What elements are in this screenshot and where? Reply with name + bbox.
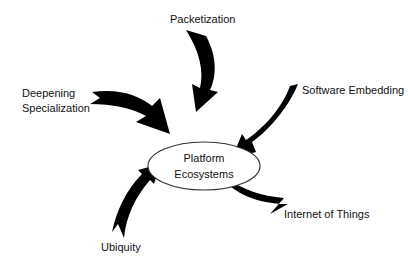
label-internet-of-things: Internet of Things (284, 207, 369, 222)
arrow-software-embedding (232, 84, 298, 158)
center-label-line2: Ecosystems (150, 166, 258, 182)
label-deepening-line1: Deepening (22, 86, 90, 101)
arrow-packetization (186, 30, 218, 112)
label-software-embedding: Software Embedding (302, 83, 404, 98)
label-deepening-line2: Specialization (22, 101, 90, 116)
arrow-deepening-specialization (90, 91, 170, 134)
label-packetization: Packetization (170, 12, 235, 27)
center-node: Platform Ecosystems (150, 150, 258, 182)
arrows-layer (0, 0, 412, 270)
label-ubiquity: Ubiquity (101, 240, 141, 255)
center-label-line1: Platform (150, 150, 258, 166)
label-deepening-specialization: Deepening Specialization (22, 86, 90, 116)
diagram-canvas: Platform Ecosystems Packetization Deepen… (0, 0, 412, 270)
